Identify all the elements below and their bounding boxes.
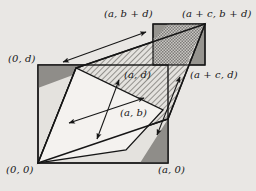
vertex-label-a-b-plus-d: (a, b + d) — [104, 9, 153, 19]
vertex-label-0-d: (0, d) — [8, 54, 36, 64]
vertex-label-a-d: (a, d) — [124, 70, 151, 80]
vertex-label-a-plus-c-d: (a + c, d) — [190, 70, 238, 80]
figure-canvas — [0, 0, 256, 191]
vertex-label-a-0: (a, 0) — [158, 165, 185, 175]
vertex-label-a-b: (a, b) — [120, 108, 147, 118]
shapes-layer — [38, 24, 205, 163]
vertex-label-0-0: (0, 0) — [6, 165, 34, 175]
geometric-figure: (a, b + d) (a + c, b + d) (0, d) (a, d) … — [0, 0, 256, 191]
vertex-label-a-plus-c-b-plus-d: (a + c, b + d) — [182, 9, 251, 19]
